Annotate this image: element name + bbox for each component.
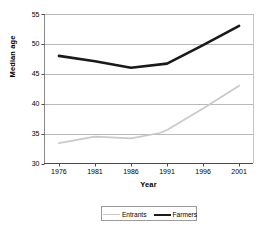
- data-series-layer: [59, 26, 239, 143]
- x-tick-label: 1976: [42, 168, 76, 175]
- legend-swatch-farmers-icon: [154, 214, 171, 216]
- legend-label-entrants: Entrants: [122, 211, 147, 218]
- chart-legend: Entrants Farmers: [101, 206, 197, 221]
- y-tick-label: 35: [18, 130, 40, 137]
- series-line-farmers: [59, 26, 239, 68]
- legend-item-farmers: Farmers: [154, 211, 198, 218]
- legend-swatch-entrants-icon: [103, 214, 120, 215]
- y-tick-label: 40: [18, 100, 40, 107]
- y-tick-label: 50: [18, 40, 40, 47]
- x-tick-label: 2001: [222, 168, 256, 175]
- x-tick-label: 1991: [150, 168, 184, 175]
- x-tick-label: 1981: [78, 168, 112, 175]
- y-tick-label: 45: [18, 70, 40, 77]
- y-tick-label: 55: [18, 11, 40, 18]
- legend-label-farmers: Farmers: [173, 211, 198, 218]
- gridlines: [45, 15, 254, 135]
- legend-item-entrants: Entrants: [103, 211, 147, 218]
- y-tick-label: 30: [18, 160, 40, 167]
- plot-area: [0, 0, 280, 232]
- x-tick-label: 1986: [114, 168, 148, 175]
- x-tick-label: 1996: [186, 168, 220, 175]
- line-chart: Median age Year 303540455055 19761981198…: [0, 0, 280, 232]
